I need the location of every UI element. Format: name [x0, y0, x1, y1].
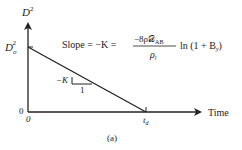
slope-formula-prefix: Slope = −K = — [62, 39, 117, 50]
origin-x-label: 0 — [26, 114, 31, 124]
figure-caption: (a) — [107, 133, 117, 143]
y-intercept-label: Do2 — [4, 39, 17, 56]
slope-formula-denominator: ρl — [149, 49, 157, 61]
td-label: td — [143, 115, 150, 126]
slope-formula-numerator: −8ρ𝒟AB — [134, 34, 163, 45]
x-axis-label: Time — [208, 107, 229, 118]
y-axis-label: D2 — [21, 5, 34, 18]
slope-rise-label: −K — [56, 75, 69, 85]
slope-run-label: 1 — [80, 85, 85, 95]
origin-y-label: 0 — [19, 106, 24, 116]
d-squared-line — [28, 47, 146, 112]
slope-formula-suffix: ln (1 + By) — [180, 40, 222, 52]
d-squared-law-diagram: D2 Do2 Slope = −K = −8ρ𝒟AB ρl ln (1 + By… — [0, 0, 242, 150]
